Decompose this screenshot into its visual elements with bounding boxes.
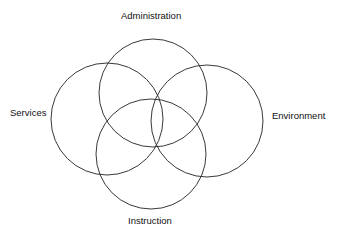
venn-diagram: Administration Services Environment Inst… <box>0 0 342 232</box>
circle-environment <box>151 65 263 177</box>
label-services: Services <box>10 107 46 118</box>
label-administration: Administration <box>121 10 181 21</box>
label-instruction: Instruction <box>128 215 172 226</box>
circle-administration <box>99 39 207 147</box>
circle-services <box>51 63 163 175</box>
label-environment: Environment <box>272 110 325 121</box>
